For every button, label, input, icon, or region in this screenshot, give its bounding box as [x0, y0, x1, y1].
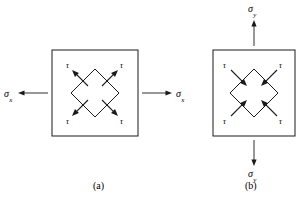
tau-label-top-right: τ: [120, 62, 123, 70]
stress-element-figure: σx σx τ τ τ τ (a) σy σy τ τ τ τ (b): [0, 0, 299, 201]
top-sigma-y-arrow-head: [251, 20, 256, 27]
panel-a-graphics: [0, 0, 149, 201]
left-sigma-x-arrow-head: [18, 90, 25, 95]
tau-label-bottom-right: τ: [279, 118, 282, 126]
panel-a-caption: (a): [93, 181, 104, 191]
tau-label-bottom-left: τ: [66, 118, 69, 126]
sigma-y-label-top: σy: [248, 4, 256, 17]
sigma-x-label-left: σx: [4, 89, 12, 102]
tau-label-bottom-left: τ: [223, 118, 226, 126]
bottom-sigma-y-arrow-head: [251, 160, 256, 167]
panel-b-caption: (b): [245, 181, 257, 191]
tau-label-top-left: τ: [66, 62, 69, 70]
tau-label-bottom-right: τ: [120, 118, 123, 126]
diagram-panel-a: σx σx τ τ τ τ (a): [0, 0, 149, 201]
diagram-panel-b: σy σy τ τ τ τ (b): [150, 0, 299, 201]
tau-label-top-left: τ: [223, 62, 226, 70]
tau-label-top-right: τ: [279, 62, 282, 70]
outer-square: [52, 50, 138, 136]
panel-b-graphics: [150, 0, 299, 201]
